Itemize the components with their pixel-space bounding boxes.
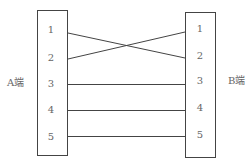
wire-a2-b1 <box>68 32 185 59</box>
a-pin-4: 4 <box>45 104 57 116</box>
b-pin-3: 3 <box>194 75 206 87</box>
a-pin-5: 5 <box>45 131 57 143</box>
b-end-label: B端 <box>228 75 245 87</box>
a-pin-1: 1 <box>45 24 57 36</box>
b-pin-2: 2 <box>194 50 206 62</box>
a-pin-2: 2 <box>45 52 57 64</box>
b-pin-5: 5 <box>194 129 206 141</box>
b-pin-4: 4 <box>194 102 206 114</box>
wiring-diagram <box>0 0 251 167</box>
b-pin-1: 1 <box>194 23 206 35</box>
a-pin-3: 3 <box>45 78 57 90</box>
a-end-label: A端 <box>7 77 24 89</box>
